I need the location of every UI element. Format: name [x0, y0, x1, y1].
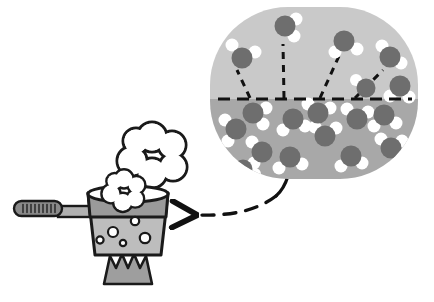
oxygen-atom [347, 109, 368, 130]
boiling-bubble [108, 227, 118, 237]
oxygen-atom [334, 31, 355, 52]
illustration-canvas [0, 0, 434, 302]
boiling-bubble [131, 217, 139, 225]
boiling-bubble [140, 233, 150, 243]
boiling-bubble [96, 236, 103, 243]
oxygen-atom [252, 142, 273, 163]
oxygen-atom [232, 48, 253, 69]
steam-lobe-fill [129, 177, 145, 193]
oxygen-atom [380, 47, 401, 68]
oxygen-atom [357, 79, 376, 98]
evaporation-diagram [0, 0, 434, 302]
oxygen-atom [280, 147, 301, 168]
oxygen-atom [226, 119, 247, 140]
oxygen-atom [283, 109, 304, 130]
oxygen-atom [275, 16, 296, 37]
steam-lobe-fill [108, 174, 122, 188]
steam-lobe-fill [124, 129, 147, 152]
oxygen-atom [374, 105, 395, 126]
oxygen-atom [308, 103, 329, 124]
oxygen-atom [315, 126, 336, 147]
oxygen-atom [390, 76, 411, 97]
oxygen-atom [243, 103, 264, 124]
boiling-bubble [120, 240, 126, 246]
steam-lobe-fill [159, 132, 184, 157]
oxygen-atom [341, 146, 362, 167]
